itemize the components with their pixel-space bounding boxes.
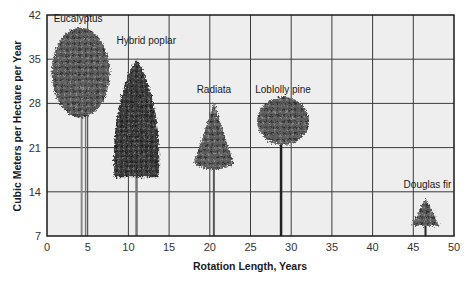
y-tick-label: 14 [29,186,41,198]
y-tick-label: 7 [35,230,41,242]
x-tick-label: 25 [244,241,256,253]
plot-area: EucalyptusHybrid poplarRadiataLoblolly p… [47,13,454,236]
x-tick-label: 30 [285,241,297,253]
x-tick-label: 10 [122,241,134,253]
y-tick-label: 21 [29,142,41,154]
x-tick-label: 0 [44,241,50,253]
y-tick-label: 28 [29,97,41,109]
x-tick-label: 5 [85,241,91,253]
tree-label: Loblolly pine [255,84,311,95]
y-axis-title: Cubic Meters per Hectare per Year [11,41,23,212]
tree-crown [52,28,110,118]
y-tick-label: 42 [29,9,41,21]
tree-label: Hybrid poplar [117,35,177,46]
x-axis-ticks: 05101520253035404550 [44,241,460,253]
x-axis-title: Rotation Length, Years [193,260,307,272]
x-tick-label: 20 [204,241,216,253]
tree-label: Douglas fir [404,179,452,190]
x-tick-label: 35 [326,241,338,253]
y-tick-label: 35 [29,53,41,65]
x-tick-label: 40 [366,241,378,253]
tree-growth-chart: EucalyptusHybrid poplarRadiataLoblolly p… [0,0,468,282]
x-tick-label: 15 [163,241,175,253]
tree-label: Radiata [197,84,232,95]
x-tick-label: 45 [407,241,419,253]
tree-crown [257,97,309,145]
x-tick-label: 50 [448,241,460,253]
y-axis-ticks: 71421283542 [29,9,41,242]
